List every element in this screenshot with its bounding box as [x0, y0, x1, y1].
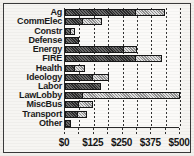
bar-row	[65, 120, 180, 127]
gridline-8	[180, 8, 181, 127]
x-tick-8	[179, 128, 180, 136]
x-tick-2	[93, 128, 94, 136]
bar-segment-dark	[65, 55, 136, 62]
bar-segment-dark	[65, 120, 71, 127]
x-tick-label-125: $125	[82, 137, 103, 148]
x-tick-label-500: $500	[168, 137, 189, 148]
x-tick-5	[136, 128, 137, 136]
category-label-other: Other	[4, 119, 62, 128]
bar-segment-dark	[65, 9, 136, 16]
category-label-fire: FIRE	[4, 54, 62, 63]
bar-row	[65, 28, 180, 35]
category-axis-labels: AgCommElecConstrDefenseEnergyFIREHealthI…	[4, 8, 62, 128]
bar-segment-light	[135, 55, 161, 62]
x-tick-1	[78, 128, 79, 136]
x-axis-ticks	[64, 128, 179, 137]
x-tick-label-375: $375	[140, 137, 161, 148]
x-tick-4	[122, 128, 123, 136]
bar-row	[65, 65, 180, 72]
x-axis-tick-labels: $0$125$250$375$500	[52, 137, 194, 150]
bar-segment-dark	[65, 83, 101, 90]
bar-segment-light	[74, 65, 85, 72]
x-tick-6	[150, 128, 151, 136]
bar-row	[65, 101, 180, 108]
bar-segment-light	[77, 111, 87, 118]
bar-segment-light	[92, 74, 109, 81]
category-label-commelec: CommElec	[4, 17, 62, 26]
bar-row	[65, 18, 180, 25]
x-tick-0	[64, 128, 65, 136]
bar-segment-dark	[65, 74, 93, 81]
x-tick-label-0: $0	[59, 137, 70, 148]
plot-area	[64, 8, 179, 128]
bar-segment-light	[82, 92, 180, 99]
x-tick-3	[107, 128, 108, 136]
bar-chart-figure: AgCommElecConstrDefenseEnergyFIREHealthI…	[0, 0, 194, 156]
bar-row	[65, 46, 180, 53]
bar-row	[65, 92, 180, 99]
bar-segment-light	[123, 46, 136, 53]
bar-row	[65, 111, 180, 118]
bar-row	[65, 37, 180, 44]
bar-segment-dark	[65, 37, 79, 44]
bar-segment-light	[70, 28, 75, 35]
bar-segment-dark	[65, 18, 83, 25]
bar-row	[65, 74, 180, 81]
bar-segment-dark	[65, 92, 83, 99]
x-tick-label-250: $250	[111, 137, 132, 148]
bar-segment-dark	[65, 46, 124, 53]
bar-segment-dark	[65, 101, 79, 108]
x-tick-7	[165, 128, 166, 136]
bar-row	[65, 9, 180, 16]
bar-segment-light	[78, 101, 93, 108]
bar-segment-light	[82, 18, 101, 25]
bar-row	[65, 83, 180, 90]
bar-segment-light	[135, 9, 165, 16]
bar-row	[65, 55, 180, 62]
